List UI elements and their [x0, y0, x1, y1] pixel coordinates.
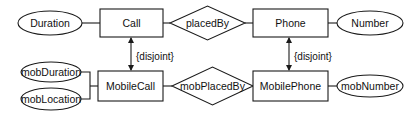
relationship-label: mobPlacedBy — [180, 80, 246, 92]
entity-phone[interactable]: Phone — [253, 9, 328, 37]
attribute-label: Duration — [30, 17, 70, 29]
entity-mobilecall[interactable]: MobileCall — [98, 71, 163, 101]
relationship-placedby[interactable]: placedBy — [170, 6, 245, 40]
disjoint-label-phone: {disjoint} — [294, 51, 332, 62]
entity-label: Call — [122, 17, 140, 29]
entity-call[interactable]: Call — [100, 9, 163, 37]
attribute-mobnumber[interactable]: mobNumber — [337, 75, 403, 97]
attribute-mobduration[interactable]: mobDuration — [21, 62, 81, 82]
attribute-moblocation[interactable]: mobLocation — [21, 88, 81, 110]
entity-mobilephone[interactable]: MobilePhone — [253, 71, 328, 101]
attribute-label: mobNumber — [341, 80, 399, 92]
mobcall-attributes-bracket — [81, 72, 90, 99]
disjoint-label-call: {disjoint} — [136, 51, 174, 62]
relationship-mobplacedby[interactable]: mobPlacedBy — [172, 67, 253, 105]
entity-label: Phone — [275, 17, 306, 29]
attribute-label: mobLocation — [21, 93, 81, 105]
entity-label: MobileCall — [106, 80, 155, 92]
relationship-label: placedBy — [186, 17, 230, 29]
er-diagram-canvas: Duration Call placedBy Phone Number {dis… — [0, 0, 418, 118]
entity-label: MobilePhone — [260, 80, 321, 92]
attribute-number[interactable]: Number — [337, 11, 403, 35]
attribute-duration[interactable]: Duration — [18, 11, 82, 35]
attribute-label: mobDuration — [21, 66, 81, 78]
attribute-label: Number — [351, 17, 389, 29]
